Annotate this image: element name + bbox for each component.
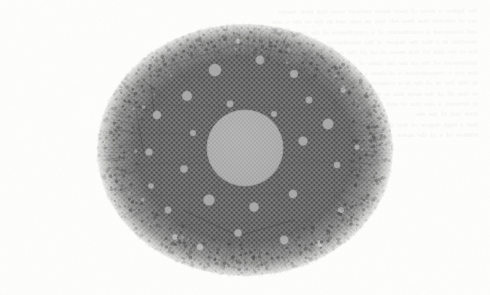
peripheral-node [359,157,362,160]
peripheral-node [391,125,392,126]
peripheral-node [345,50,346,51]
peripheral-node [96,187,100,191]
peripheral-node [88,171,89,172]
peripheral-node [100,202,103,205]
peripheral-node [383,127,386,130]
peripheral-node [103,177,106,180]
peripheral-node [104,145,105,146]
peripheral-node [262,31,263,32]
peripheral-node [251,263,252,264]
peripheral-node [251,276,252,277]
peripheral-node [164,242,167,245]
peripheral-node [142,248,145,251]
peripheral-node [203,278,204,279]
peripheral-node [199,262,202,265]
peripheral-node [383,109,386,112]
peripheral-node [279,272,281,274]
peripheral-node [350,57,352,59]
peripheral-node [386,186,388,188]
peripheral-node [266,28,267,29]
peripheral-node [326,258,330,262]
peripheral-node [120,230,122,232]
peripheral-node [375,204,379,208]
peripheral-node [183,262,184,263]
peripheral-node [227,18,230,21]
peripheral-node [115,178,117,180]
peripheral-node [285,24,288,27]
network-graph-figure [88,14,398,280]
peripheral-node [391,145,394,148]
peripheral-node [329,74,331,76]
peripheral-node [188,239,190,241]
peripheral-node [103,93,106,96]
peripheral-node [330,217,332,219]
peripheral-node [125,66,126,67]
peripheral-node [99,194,100,195]
peripheral-node [102,188,104,190]
peripheral-node [388,102,390,104]
peripheral-node [159,45,161,47]
peripheral-node [397,181,398,184]
peripheral-node [113,93,116,96]
peripheral-node [217,16,220,19]
peripheral-node [156,257,157,258]
peripheral-node [311,44,313,46]
peripheral-node [336,235,338,237]
peripheral-node [141,198,145,202]
peripheral-node [339,255,341,257]
peripheral-node [150,44,153,47]
peripheral-node [101,191,102,192]
peripheral-node [241,20,245,24]
peripheral-node [91,117,92,118]
peripheral-node [299,26,301,28]
peripheral-node [282,275,286,279]
peripheral-node [309,267,312,270]
peripheral-node [135,201,138,204]
peripheral-node [105,97,109,101]
peripheral-node [157,248,158,249]
peripheral-node [178,272,180,274]
peripheral-node [266,252,269,255]
peripheral-node [94,187,95,188]
peripheral-node [342,85,345,88]
peripheral-node [278,241,280,243]
peripheral-node [319,218,321,220]
peripheral-node [388,159,391,162]
peripheral-node [265,37,267,39]
peripheral-node [116,116,117,117]
peripheral-node [381,143,382,144]
peripheral-node [350,170,353,173]
peripheral-node [391,116,392,117]
peripheral-node [121,81,124,84]
peripheral-node [278,18,281,21]
peripheral-node [261,45,265,49]
peripheral-node [369,205,372,208]
peripheral-node [347,238,350,241]
peripheral-node [385,190,388,193]
peripheral-node [344,67,346,69]
peripheral-node [95,103,98,106]
peripheral-node [114,173,117,176]
peripheral-node [127,62,130,65]
peripheral-node [167,41,169,43]
peripheral-node [313,230,314,231]
peripheral-node [362,140,364,142]
peripheral-node [117,72,118,73]
scanned-page: the lighter a more of their mean vertice… [0,0,490,295]
peripheral-node [386,197,388,199]
peripheral-node [95,178,96,179]
peripheral-node [373,150,377,154]
peripheral-node [88,129,89,130]
peripheral-node [353,153,355,155]
peripheral-node [307,271,311,275]
peripheral-node [344,45,348,49]
peripheral-node [194,275,197,278]
peripheral-node [117,201,119,203]
peripheral-node [392,101,394,103]
peripheral-node [115,98,118,101]
peripheral-node [210,32,211,33]
peripheral-node [228,265,231,268]
peripheral-node [116,208,118,210]
peripheral-node [118,203,119,204]
peripheral-node [132,58,133,59]
